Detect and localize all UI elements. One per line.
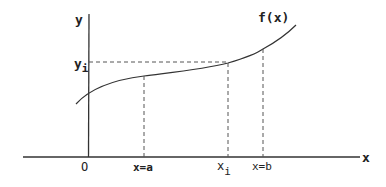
- y-i-label: yi: [74, 56, 89, 75]
- function-diagram: y x O f(x) yi x=a xi x=b: [0, 0, 386, 187]
- y-axis-label: y: [75, 12, 83, 27]
- x-a-label: x=a: [133, 161, 153, 174]
- x-i-label: xi: [217, 159, 231, 178]
- y-axis: [89, 14, 90, 157]
- origin-label: O: [81, 160, 88, 174]
- curve-label: f(x): [258, 10, 289, 25]
- x-b-label: x=b: [252, 160, 272, 173]
- x-axis-label: x: [362, 150, 370, 165]
